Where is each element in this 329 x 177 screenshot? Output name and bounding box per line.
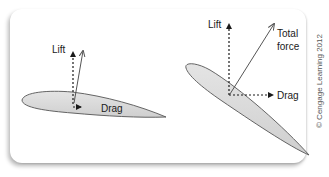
right-lift-label: Lift <box>208 19 222 30</box>
left-lift-label: Lift <box>52 44 66 55</box>
left-airfoil <box>22 91 166 117</box>
copyright-credit: © Cengage Learning 2012 <box>315 8 324 128</box>
right-total-force-arrow <box>230 24 274 94</box>
left-airfoil-group: Lift Drag <box>22 44 166 117</box>
airfoil-diagram: Lift Drag Lift Total force Drag <box>0 0 329 177</box>
right-airfoil-group: Lift Total force Drag <box>186 19 309 155</box>
right-total-force-label-line2: force <box>277 41 300 52</box>
left-drag-label: Drag <box>101 103 123 114</box>
right-total-force-label-line1: Total <box>277 28 298 39</box>
right-drag-label: Drag <box>277 90 299 101</box>
right-airfoil <box>186 64 309 155</box>
